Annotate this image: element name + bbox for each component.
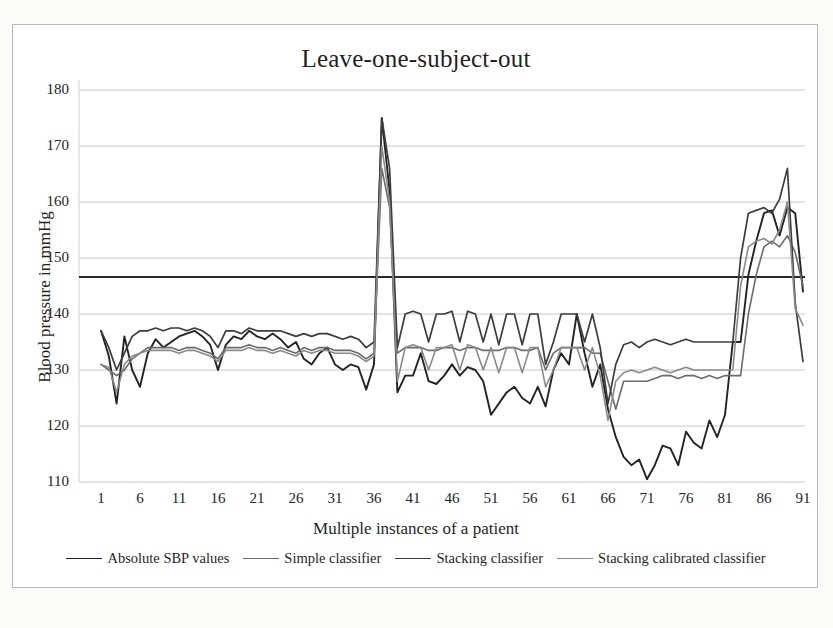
y-tick-label: 160 <box>27 193 69 210</box>
series-line-0 <box>101 118 803 479</box>
x-tick-label: 6 <box>125 490 155 507</box>
x-tick-label: 91 <box>788 490 818 507</box>
x-tick-label: 51 <box>476 490 506 507</box>
y-tick-label: 180 <box>27 81 69 98</box>
legend-line-icon <box>66 558 102 559</box>
x-tick-label: 86 <box>749 490 779 507</box>
legend-label: Stacking calibrated classifier <box>598 551 766 566</box>
x-tick-label: 41 <box>398 490 428 507</box>
x-tick-label: 56 <box>515 490 545 507</box>
legend-label: Absolute SBP values <box>107 551 229 566</box>
chart-legend: Absolute SBP valuesSimple classifierStac… <box>13 551 819 566</box>
x-tick-label: 81 <box>710 490 740 507</box>
legend-item[interactable]: Simple classifier <box>243 551 381 566</box>
legend-line-icon <box>243 558 279 559</box>
x-tick-label: 61 <box>554 490 584 507</box>
x-tick-label: 76 <box>671 490 701 507</box>
legend-item[interactable]: Absolute SBP values <box>66 551 229 566</box>
y-tick-label: 120 <box>27 417 69 434</box>
x-tick-label: 1 <box>86 490 116 507</box>
legend-label: Stacking classifier <box>436 551 543 566</box>
legend-label: Simple classifier <box>284 551 381 566</box>
y-tick-label: 140 <box>27 305 69 322</box>
x-tick-label: 71 <box>632 490 662 507</box>
x-tick-label: 21 <box>242 490 272 507</box>
y-tick-label: 130 <box>27 361 69 378</box>
chart-frame: Leave-one-subject-out Blood pressure in … <box>12 24 818 588</box>
x-tick-label: 11 <box>164 490 194 507</box>
x-axis-label: Multiple instances of a patient <box>13 519 819 539</box>
legend-line-icon <box>557 558 593 559</box>
x-tick-label: 36 <box>359 490 389 507</box>
y-tick-label: 150 <box>27 249 69 266</box>
legend-line-icon <box>395 558 431 559</box>
series-line-3 <box>101 146 803 420</box>
x-tick-label: 26 <box>281 490 311 507</box>
series-line-1 <box>101 168 803 409</box>
x-tick-label: 46 <box>437 490 467 507</box>
series-line-2 <box>101 118 803 404</box>
x-tick-label: 31 <box>320 490 350 507</box>
y-tick-label: 110 <box>27 473 69 490</box>
x-tick-label: 66 <box>593 490 623 507</box>
y-axis-label: Blood pressure in mmHg <box>35 147 55 447</box>
y-tick-label: 170 <box>27 137 69 154</box>
x-tick-label: 16 <box>203 490 233 507</box>
legend-item[interactable]: Stacking calibrated classifier <box>557 551 766 566</box>
legend-item[interactable]: Stacking classifier <box>395 551 543 566</box>
